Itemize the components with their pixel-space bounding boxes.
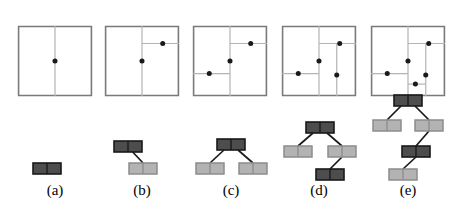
- tree-svg-d: [278, 111, 362, 180]
- tree-node-n0: [217, 139, 245, 150]
- tree-c: [191, 118, 271, 180]
- data-point: [296, 71, 301, 76]
- tree-node-n3: [316, 169, 344, 180]
- tree-edge: [415, 106, 429, 120]
- tree-edge: [330, 157, 342, 169]
- caption-a: (a): [35, 183, 75, 198]
- tree-b: [105, 118, 179, 180]
- caption-d: (d): [299, 183, 339, 198]
- tree-e: [363, 88, 449, 180]
- tree-node-n0: [394, 95, 422, 106]
- tree-node-n0: [33, 163, 61, 174]
- tree-node-n4: [389, 169, 417, 180]
- tree-svg-a: [18, 118, 92, 180]
- tree-svg-e: [363, 88, 449, 180]
- caption-b: (b): [122, 183, 162, 198]
- partition-svg-a: [18, 26, 92, 96]
- data-point: [405, 58, 410, 63]
- tree-edge: [298, 133, 313, 146]
- tree-edge: [327, 133, 342, 146]
- data-point: [227, 58, 232, 63]
- caption-c: (c): [211, 183, 251, 198]
- partition-svg-b: [105, 26, 179, 96]
- partition-panel-a: [18, 26, 92, 96]
- partition-panel-c: [193, 26, 267, 96]
- partition-svg-c: [193, 26, 267, 96]
- tree-edge: [387, 106, 401, 120]
- tree-node-n3: [402, 146, 430, 157]
- data-point: [413, 82, 418, 87]
- tree-node-n2: [239, 163, 267, 174]
- data-point: [426, 41, 431, 46]
- tree-node-n1: [373, 120, 401, 131]
- partition-panel-b: [105, 26, 179, 96]
- caption-e: (e): [388, 183, 428, 198]
- data-point: [385, 71, 390, 76]
- partition-svg-e: [371, 26, 445, 96]
- tree-node-n1: [129, 163, 157, 174]
- tree-d: [278, 111, 362, 180]
- data-point: [423, 72, 428, 77]
- tree-node-n1: [284, 146, 312, 157]
- partition-panel-e: [371, 26, 445, 96]
- data-point: [52, 58, 57, 63]
- partition-svg-d: [282, 26, 356, 96]
- kd-tree-figure: (a) (b) (c) (d) (e): [0, 0, 455, 210]
- tree-svg-b: [105, 118, 179, 180]
- tree-edge: [403, 157, 416, 169]
- tree-node-n2: [328, 146, 356, 157]
- data-point: [207, 71, 212, 76]
- data-point: [139, 58, 144, 63]
- tree-edge: [416, 131, 429, 146]
- tree-node-n2: [415, 120, 443, 131]
- data-point: [316, 58, 321, 63]
- data-point: [160, 41, 165, 46]
- data-point: [337, 41, 342, 46]
- tree-a: [18, 118, 92, 180]
- tree-node-n1: [196, 163, 224, 174]
- partition-panel-d: [282, 26, 356, 96]
- data-point: [248, 41, 253, 46]
- tree-edge: [210, 150, 224, 163]
- tree-svg-c: [191, 118, 271, 180]
- tree-node-n0: [114, 141, 142, 152]
- tree-node-n0: [306, 122, 334, 133]
- data-point: [334, 72, 339, 77]
- tree-edge: [238, 150, 253, 163]
